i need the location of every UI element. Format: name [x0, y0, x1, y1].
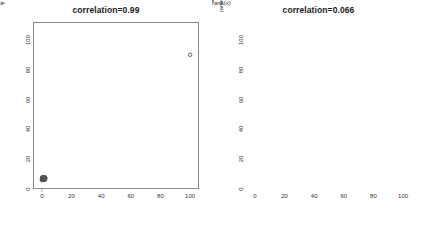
x-tick-label: 100	[392, 193, 414, 199]
x-tick-label: 80	[362, 193, 384, 199]
y-tick-label: 20	[25, 149, 31, 169]
x-tick-label: 40	[90, 193, 112, 199]
y-tick-label: 20	[238, 149, 244, 169]
y-tick-label: 60	[238, 90, 244, 110]
panel-rank-data: correlation=0.066 rank(x) rank(y) 020406…	[212, 0, 425, 230]
y-axis-label-right: rank(y)	[218, 0, 224, 12]
data-point	[188, 53, 192, 57]
x-tick-label: 60	[120, 193, 142, 199]
y-tick-label: 60	[25, 90, 31, 110]
x-tick-label: 80	[149, 193, 171, 199]
y-axis-label-left: y	[0, 2, 5, 5]
y-tick-label: 0	[25, 179, 31, 199]
y-tick-label: 100	[238, 30, 244, 50]
x-tick-label: 100	[179, 193, 201, 199]
y-tick-label: 40	[238, 119, 244, 139]
x-tick-label: 60	[333, 193, 355, 199]
x-tick-label: 20	[61, 193, 83, 199]
panel-raw-data: correlation=0.99 x y 0204060801000204060…	[0, 0, 212, 230]
y-tick-label: 40	[25, 119, 31, 139]
y-tick-label: 100	[25, 30, 31, 50]
x-tick-label: 0	[31, 193, 53, 199]
x-tick-label: 0	[244, 193, 266, 199]
figure-container: correlation=0.99 x y 0204060801000204060…	[0, 0, 425, 230]
y-tick-label: 80	[25, 60, 31, 80]
x-tick-label: 20	[274, 193, 296, 199]
y-tick-label: 80	[238, 60, 244, 80]
y-tick-label: 0	[238, 179, 244, 199]
x-tick-label: 40	[303, 193, 325, 199]
